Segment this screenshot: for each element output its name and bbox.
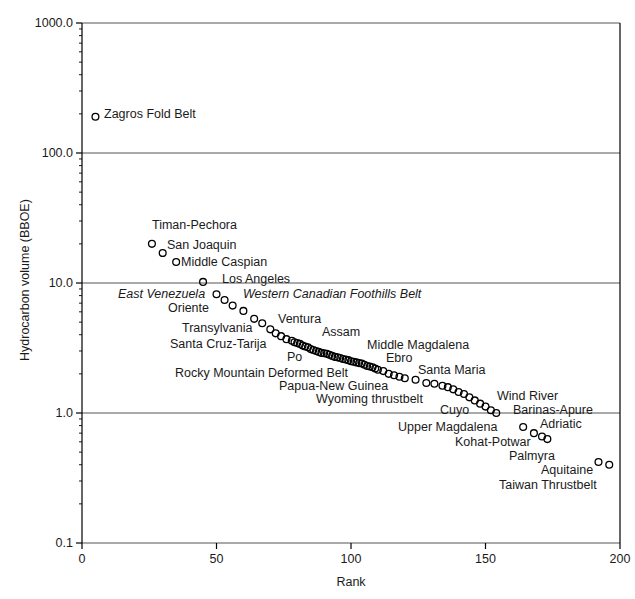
point-label: Santa Maria: [418, 364, 485, 377]
data-point: [159, 250, 166, 257]
point-label: Ventura: [278, 313, 321, 326]
chart-figure: Hydrocarbon volume (BBOE) Rank 0.11.010.…: [0, 0, 635, 599]
point-label: Cuyo: [440, 404, 469, 417]
data-point: [423, 380, 430, 387]
point-label: Assam: [322, 326, 360, 339]
data-point: [240, 308, 247, 315]
data-point: [259, 320, 266, 327]
x-tick-label: 150: [475, 553, 496, 566]
data-point: [520, 424, 527, 431]
y-tick-label: 0.1: [56, 537, 73, 550]
point-label: Middle Caspian: [181, 256, 267, 269]
point-label: Kohat-Potwar: [455, 436, 531, 449]
point-label: Aquitaine: [541, 464, 593, 477]
x-axis-ticks: [82, 543, 620, 549]
data-point: [412, 376, 419, 383]
y-axis-ticks: [76, 23, 82, 543]
x-tick-label: 100: [341, 553, 362, 566]
point-label: East Venezuela: [118, 288, 205, 301]
point-label: Po: [287, 351, 302, 364]
data-point: [531, 430, 538, 437]
x-tick-label: 50: [210, 553, 224, 566]
point-label: Timan-Pechora: [152, 219, 237, 232]
data-point: [173, 259, 180, 266]
point-label: Barinas-Apure: [513, 404, 593, 417]
point-label: Papua-New Guinea: [279, 380, 388, 393]
point-label: Ebro: [386, 352, 412, 365]
data-point: [149, 240, 156, 247]
point-label: Palmyra: [509, 450, 555, 463]
point-label: Adriatic: [540, 418, 582, 431]
point-label: Oriente: [168, 302, 209, 315]
x-axis-title: Rank: [336, 575, 365, 589]
y-tick-label: 10.0: [49, 277, 73, 290]
data-point: [213, 291, 220, 298]
point-label: Wind River: [497, 390, 558, 403]
point-label: San Joaquin: [167, 239, 237, 252]
x-tick-label: 200: [610, 553, 631, 566]
point-label: Taiwan Thrustbelt: [499, 479, 597, 492]
point-label: Middle Magdalena: [367, 339, 469, 352]
y-axis-title: Hydrocarbon volume (BBOE): [18, 199, 32, 361]
point-label: Rocky Mountain Deformed Belt: [175, 367, 348, 380]
data-point: [221, 297, 228, 304]
point-label: Wyoming thrustbelt: [316, 393, 423, 406]
data-point: [595, 459, 602, 466]
point-label: Western Canadian Foothills Belt: [243, 288, 421, 301]
data-point: [92, 113, 99, 120]
data-point: [431, 380, 438, 387]
point-label: Transylvania: [182, 322, 252, 335]
y-tick-label: 100.0: [42, 147, 73, 160]
data-point: [229, 302, 236, 309]
point-label: Santa Cruz-Tarija: [170, 338, 267, 351]
point-label: Los Angeles: [222, 273, 290, 286]
gridlines: [82, 23, 620, 543]
point-label: Zagros Fold Belt: [104, 108, 196, 121]
x-tick-label: 0: [79, 553, 86, 566]
data-point: [606, 461, 613, 468]
y-tick-label: 1.0: [56, 407, 73, 420]
y-tick-label: 1000.0: [35, 17, 73, 30]
point-label: Upper Magdalena: [398, 421, 497, 434]
data-point: [200, 278, 207, 285]
